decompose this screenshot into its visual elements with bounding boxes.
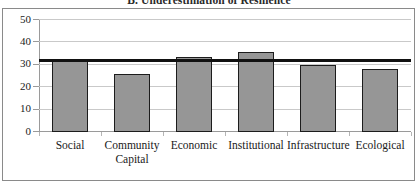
bar-ecological[interactable] <box>362 69 398 132</box>
bar-series <box>39 19 411 132</box>
x-axis-category-label-line: Institutional <box>225 138 287 152</box>
bar-slot <box>39 19 101 132</box>
x-axis-category-label-line: Ecological <box>349 138 411 152</box>
x-axis-category-label: Ecological <box>349 138 411 152</box>
x-axis-category-label-line: Community <box>101 138 163 152</box>
y-axis-tick <box>33 19 39 20</box>
chart-figure: B. Underestimation of Resilience 0102030… <box>0 0 418 185</box>
x-axis-tick <box>225 132 226 136</box>
x-axis-category-label: Institutional <box>225 138 287 152</box>
x-axis-category-label-line: Capital <box>101 152 163 166</box>
x-axis-category-label: Infrastructure <box>287 138 349 152</box>
x-axis-tick <box>411 132 412 136</box>
bar-slot <box>163 19 225 132</box>
x-axis-ticks <box>39 132 411 136</box>
y-axis-labels: 01020304050 <box>3 9 31 182</box>
bar-infrastructure[interactable] <box>300 65 336 132</box>
bar-slot <box>287 19 349 132</box>
y-axis-tick <box>33 41 39 42</box>
bar-social[interactable] <box>52 61 88 132</box>
bar-slot <box>101 19 163 132</box>
y-axis-tick <box>33 86 39 87</box>
reference-line <box>39 59 411 61</box>
x-axis-tick <box>349 132 350 136</box>
x-axis-category-label: Economic <box>163 138 225 152</box>
x-axis-tick <box>39 132 40 136</box>
bar-slot <box>225 19 287 132</box>
chart-title: B. Underestimation of Resilience <box>0 0 418 7</box>
y-axis-tick <box>33 131 39 132</box>
x-axis-category-label-line: Social <box>39 138 101 152</box>
x-axis-category-label: Social <box>39 138 101 152</box>
x-axis-labels: SocialCommunityCapitalEconomicInstitutio… <box>39 138 411 178</box>
x-axis-category-label: CommunityCapital <box>101 138 163 166</box>
y-axis-tick-label: 20 <box>5 81 31 92</box>
plot-wrapper: 01020304050 SocialCommunityCapitalEconom… <box>3 9 416 182</box>
x-axis-tick <box>101 132 102 136</box>
chart-frame: 01020304050 SocialCommunityCapitalEconom… <box>2 8 415 181</box>
x-axis-category-label-line: Economic <box>163 138 225 152</box>
y-axis-tick-label: 50 <box>5 14 31 25</box>
bar-community-capital[interactable] <box>114 74 150 132</box>
y-axis-tick <box>33 109 39 110</box>
y-axis-tick-label: 0 <box>5 126 31 137</box>
y-axis-tick <box>33 64 39 65</box>
bar-economic[interactable] <box>176 57 212 132</box>
x-axis-category-label-line: Infrastructure <box>287 138 349 152</box>
bar-institutional[interactable] <box>238 52 274 132</box>
y-axis-tick-label: 30 <box>5 58 31 69</box>
bar-slot <box>349 19 411 132</box>
x-axis-tick <box>287 132 288 136</box>
y-axis-tick-label: 40 <box>5 36 31 47</box>
y-axis-tick-label: 10 <box>5 103 31 114</box>
x-axis-tick <box>163 132 164 136</box>
